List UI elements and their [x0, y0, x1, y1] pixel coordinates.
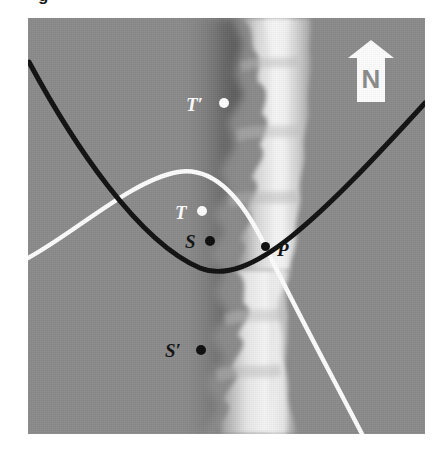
point-dot-p — [261, 242, 270, 251]
point-label-s: S — [185, 232, 196, 251]
grayscale-map-plate: T′ T S S′ P N — [28, 18, 425, 434]
point-label-t-prime: T′ — [186, 95, 203, 114]
figure-root: g — [0, 0, 442, 452]
north-arrow-label: N — [347, 66, 395, 92]
point-label-p: P — [277, 240, 289, 259]
point-dot-s-prime — [196, 345, 206, 355]
point-label-s-prime: S′ — [165, 341, 181, 360]
point-label-t: T — [175, 203, 187, 222]
point-dot-s — [205, 236, 215, 246]
point-dot-t — [197, 206, 207, 216]
north-arrow-icon: N — [347, 40, 395, 102]
point-dot-t-prime — [219, 98, 229, 108]
clipped-caption-fragment: g — [38, 0, 64, 5]
